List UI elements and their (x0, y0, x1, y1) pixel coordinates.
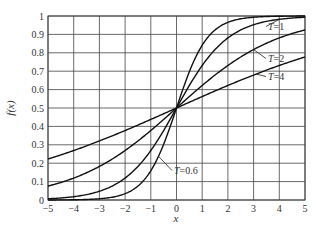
y-tick-label: 0.3 (32, 139, 45, 150)
y-tick-label: 0.9 (32, 29, 45, 40)
y-tick-label: 1 (39, 11, 44, 22)
y-tick-label: 0.7 (32, 66, 45, 77)
x-tick-label: −5 (43, 203, 54, 214)
x-tick-label: 5 (303, 203, 308, 214)
sigmoid-chart: T=0.6T=1T=2T=4 −5−4−3−2−101234500.10.20.… (0, 0, 316, 226)
y-tick-label: 0.6 (32, 84, 45, 95)
y-tick-label: 0.4 (32, 121, 45, 132)
x-axis-label: x (173, 212, 179, 224)
curve-label-t-0-6: T=0.6 (174, 165, 198, 176)
leader-line-t-2 (254, 50, 266, 59)
x-tick-label: −4 (68, 203, 79, 214)
ticks-layer: −5−4−3−2−101234500.10.20.30.40.50.60.70.… (32, 11, 308, 215)
curve-label-t-2: T=2 (268, 53, 284, 64)
y-tick-label: 0.2 (32, 158, 45, 169)
x-tick-label: 2 (225, 203, 230, 214)
x-tick-label: 3 (251, 203, 256, 214)
y-tick-label: 0 (39, 195, 44, 206)
x-tick-label: 4 (277, 203, 282, 214)
x-tick-label: 1 (200, 203, 205, 214)
x-tick-label: −1 (145, 203, 156, 214)
x-tick-label: −2 (120, 203, 131, 214)
y-tick-label: 0.1 (32, 176, 45, 187)
y-tick-label: 0.5 (32, 103, 45, 114)
y-axis-label: f(x) (4, 100, 17, 116)
y-tick-label: 0.8 (32, 47, 45, 58)
x-tick-label: −3 (94, 203, 105, 214)
curve-label-t-4: T=4 (268, 71, 284, 82)
curve-label-t-1: T=1 (268, 21, 284, 32)
leader-line-t-4 (256, 74, 266, 76)
